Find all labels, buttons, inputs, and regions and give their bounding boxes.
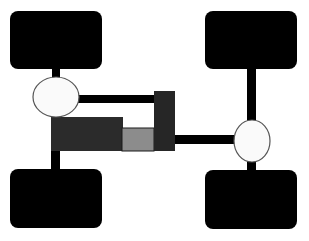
rear-propshaft — [174, 135, 236, 144]
rear-differential — [234, 120, 270, 162]
transfer-case — [154, 91, 175, 151]
wheel-front-left — [10, 11, 102, 69]
wheel-rear-right — [205, 170, 297, 229]
front-propshaft — [78, 95, 156, 103]
rear-axle-shaft-upper — [247, 66, 256, 122]
wheel-front-right — [205, 11, 297, 69]
transmission-box — [122, 128, 154, 151]
front-differential — [33, 77, 79, 117]
front-left-halfshaft-lower — [51, 148, 60, 172]
drivetrain-diagram — [0, 0, 309, 241]
wheel-rear-left — [10, 169, 102, 228]
engine-block — [51, 117, 123, 151]
